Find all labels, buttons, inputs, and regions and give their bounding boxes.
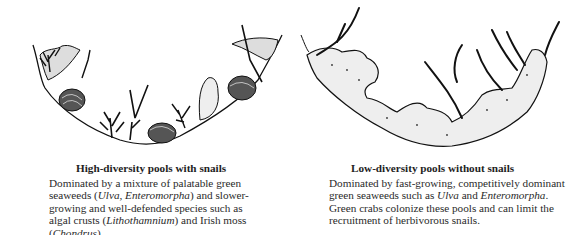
panel-high-diversity: High-diversity pools with snails Dominat… bbox=[0, 0, 287, 235]
snail-icon bbox=[228, 76, 256, 100]
species-name: Ulva bbox=[437, 189, 459, 201]
species-name: Enteromorpha bbox=[481, 189, 546, 201]
snail-icon bbox=[148, 123, 176, 143]
species-name: Ulva, Enteromorpha bbox=[98, 189, 190, 201]
panel-title: Low-diversity pools without snails bbox=[351, 162, 514, 174]
panel-title: High-diversity pools with snails bbox=[76, 162, 226, 174]
tidepool-without-snails-illustration bbox=[287, 0, 574, 150]
panel-low-diversity: Low-diversity pools without snails Domin… bbox=[287, 0, 574, 235]
description-text: ). bbox=[97, 227, 104, 235]
panel-description: Dominated by fast-growing, competitively… bbox=[329, 177, 567, 227]
species-name: Chondrus bbox=[53, 227, 97, 235]
description-text: and bbox=[459, 189, 481, 201]
panel-description: Dominated by a mixture of palatable gree… bbox=[49, 177, 261, 235]
snail-icon bbox=[59, 89, 85, 111]
species-name: Lithothamnium bbox=[106, 214, 174, 226]
tidepool-with-snails-illustration bbox=[0, 0, 287, 150]
